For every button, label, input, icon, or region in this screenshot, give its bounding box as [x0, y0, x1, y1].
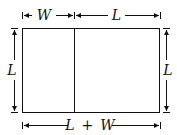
total-label-l: L — [64, 117, 74, 133]
left-l-dimension: L — [6, 29, 18, 113]
length-label-top: L — [111, 7, 121, 23]
rectangle-dimension-diagram: W L L L L + W — [0, 0, 177, 135]
total-length-label: L + W — [64, 116, 116, 133]
outer-rectangle — [23, 29, 160, 113]
top-w-dimension: W — [23, 7, 75, 23]
length-label-right: L — [162, 62, 172, 78]
total-label-plus: + — [82, 117, 94, 133]
right-l-dimension: L — [162, 29, 172, 113]
top-l-dimension: L — [76, 7, 161, 23]
bottom-total-dimension: L + W — [23, 116, 161, 133]
total-label-w: W — [100, 117, 116, 133]
width-label-top: W — [37, 7, 53, 23]
length-label-left: L — [6, 62, 16, 78]
